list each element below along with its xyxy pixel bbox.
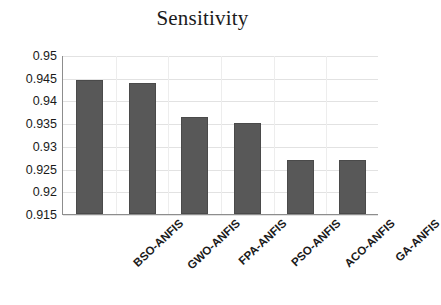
- bar-ga-anfis[interactable]: [339, 160, 366, 215]
- x-axis-tick-label-text: GA-ANFIS: [393, 217, 441, 264]
- bar-fpa-anfis[interactable]: [181, 117, 208, 214]
- bar-pso-anfis[interactable]: [234, 123, 261, 214]
- plot-area: [62, 56, 378, 215]
- x-axis-tick-label-text: ACO-ANFIS: [342, 217, 397, 269]
- x-axis-tick-label-text: BSO-ANFIS: [131, 217, 185, 269]
- y-axis-tick-label: 0.925: [5, 163, 57, 177]
- x-axis-tick-labels: BSO-ANFISGWO-ANFISFPA-ANFISPSO-ANFISACO-…: [62, 217, 378, 303]
- y-axis-tick-label: 0.92: [5, 185, 57, 199]
- y-axis-tick-label: 0.935: [5, 117, 57, 131]
- y-axis-tick-label: 0.945: [5, 72, 57, 86]
- bar-aco-anfis[interactable]: [287, 160, 314, 215]
- y-axis-tick-label: 0.94: [5, 94, 57, 108]
- x-axis-tick-label: FPA-ANFIS: [236, 217, 288, 267]
- gridline: [63, 215, 378, 216]
- chart-title: Sensitivity: [0, 6, 405, 31]
- y-axis-tick-label: 0.93: [5, 140, 57, 154]
- x-axis-tick-label: BSO-ANFIS: [131, 217, 185, 269]
- x-axis-tick-label-text: FPA-ANFIS: [236, 217, 288, 267]
- y-axis-tick-label: 0.915: [5, 208, 57, 222]
- x-axis-tick-label: GA-ANFIS: [393, 217, 441, 264]
- x-axis-tick-label: ACO-ANFIS: [342, 217, 397, 269]
- bars-layer: [63, 56, 378, 214]
- x-axis-tick-label: PSO-ANFIS: [289, 217, 343, 268]
- x-axis-tick-label: GWO-ANFIS: [185, 217, 242, 272]
- y-axis-tick-label: 0.95: [5, 49, 57, 63]
- y-axis-tick-labels: 0.9150.920.9250.930.9350.940.9450.95: [0, 56, 57, 215]
- bar-bso-anfis[interactable]: [76, 80, 103, 214]
- bar-gwo-anfis[interactable]: [129, 83, 156, 214]
- x-axis-tick-label-text: GWO-ANFIS: [185, 217, 242, 272]
- x-axis-tick-label-text: PSO-ANFIS: [289, 217, 343, 268]
